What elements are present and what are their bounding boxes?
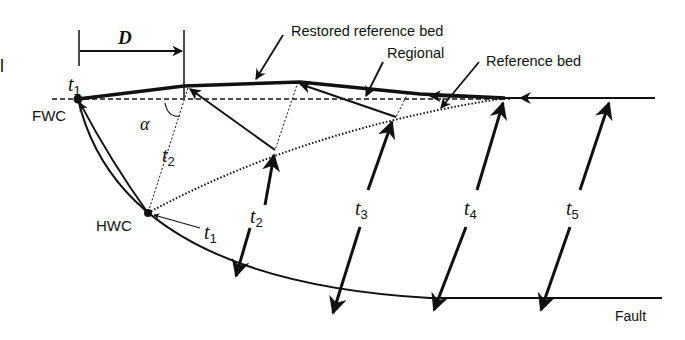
hwc-label: HWC [96, 217, 132, 234]
svg-text:t2: t2 [162, 144, 175, 169]
restored-pointer [256, 35, 283, 79]
reference-pointer [441, 62, 479, 108]
t5-label: t5 [566, 197, 579, 222]
svg-text:t1: t1 [68, 73, 81, 98]
svg-text:t5: t5 [566, 197, 579, 222]
regional-label: Regional [387, 45, 444, 61]
t2-left-label: t2 [162, 144, 175, 169]
fault-restoration-diagram: l D α [0, 0, 685, 340]
svg-text:t4: t4 [464, 197, 477, 222]
fault-label: Fault [615, 308, 646, 324]
t1-hwc-label: t1 [204, 221, 217, 246]
t1-top-label: t1 [68, 73, 81, 98]
displacement-label: D [117, 27, 132, 48]
hwc-point [144, 209, 152, 217]
svg-text:t2: t2 [250, 205, 263, 230]
svg-text:t1: t1 [204, 221, 217, 246]
t4-label: t4 [464, 197, 477, 222]
construction-lines [148, 82, 408, 213]
deformed-bed-dotted [148, 98, 505, 213]
thickness-arrows [236, 103, 609, 313]
t2-label: t2 [250, 205, 263, 230]
fault-curve [78, 99, 662, 298]
edge-fragment-text: l [0, 56, 4, 76]
alpha-label: α [140, 114, 150, 134]
restore-arrow-1 [190, 89, 275, 150]
alpha-angle-arc [165, 103, 180, 116]
reference-bed-label: Reference bed [486, 53, 581, 69]
restored-reference-bed-label: Restored reference bed [291, 23, 443, 39]
fwc-label: FWC [32, 107, 66, 124]
svg-text:t3: t3 [355, 197, 368, 222]
hwc-to-fwc-arrow [80, 103, 148, 213]
t3-label: t3 [355, 197, 368, 222]
